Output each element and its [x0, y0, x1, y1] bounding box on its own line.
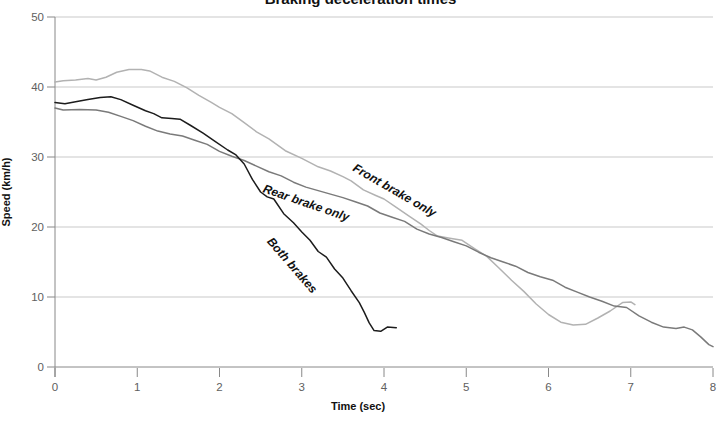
y-tick-label-20: 20 — [31, 221, 44, 233]
x-tick-label-0: 0 — [52, 381, 58, 393]
y-tick-label-30: 30 — [31, 151, 44, 163]
x-tick-label-5: 5 — [463, 381, 469, 393]
plot-area: 01020304050012345678Front brake onlyRear… — [0, 0, 721, 421]
x-tick-label-7: 7 — [628, 381, 634, 393]
x-tick-label-1: 1 — [134, 381, 140, 393]
x-tick-label-4: 4 — [381, 381, 388, 393]
chart: 01020304050012345678Front brake onlyRear… — [0, 0, 721, 421]
x-tick-label-8: 8 — [710, 381, 716, 393]
x-axis-title: Time (sec) — [0, 400, 716, 412]
x-tick-label-2: 2 — [216, 381, 222, 393]
series-line-front-brake-only — [55, 70, 635, 326]
y-tick-label-50: 50 — [31, 11, 44, 23]
y-tick-label-0: 0 — [38, 361, 44, 373]
x-tick-label-6: 6 — [545, 381, 551, 393]
y-tick-label-10: 10 — [31, 291, 44, 303]
x-tick-label-3: 3 — [299, 381, 305, 393]
chart-title: Braking deceleration times — [0, 0, 721, 7]
y-tick-label-40: 40 — [31, 81, 44, 93]
y-axis-title: Speed (km/h) — [0, 132, 16, 252]
